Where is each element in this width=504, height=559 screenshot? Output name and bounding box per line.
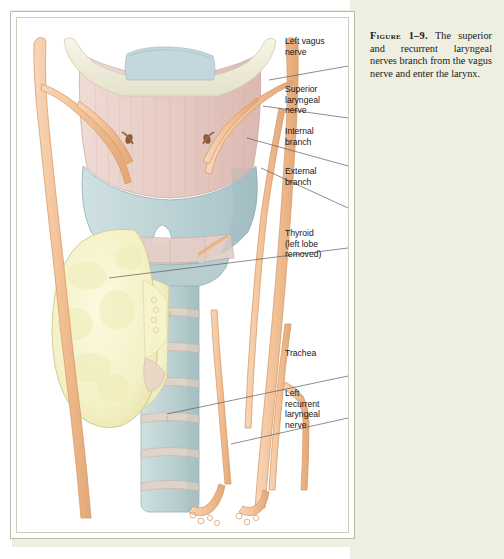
- label-thyroid: Thyroid (left lobe removed): [285, 228, 321, 260]
- figure-caption: Figure 1–9. The superior and recurrent l…: [370, 30, 492, 80]
- label-left-recurrent-laryngeal-nerve: Left recurrent laryngeal nerve: [285, 388, 320, 430]
- figure-number: Figure 1–9.: [370, 30, 428, 41]
- label-trachea: Trachea: [285, 348, 316, 359]
- label-left-vagus-nerve: Left vagus nerve: [285, 36, 325, 57]
- label-external-branch: External branch: [285, 166, 317, 187]
- page-margin-top: [0, 0, 350, 10]
- figure-page: Left vagus nerve Superior laryngeal nerv…: [0, 0, 504, 559]
- label-superior-laryngeal-nerve: Superior laryngeal nerve: [285, 84, 320, 116]
- left-recurrent-laryngeal-nerve: [211, 310, 231, 484]
- page-margin-bottom: [0, 547, 350, 559]
- label-internal-branch: Internal branch: [285, 126, 314, 147]
- leader-left-vagus-nerve: [269, 66, 348, 80]
